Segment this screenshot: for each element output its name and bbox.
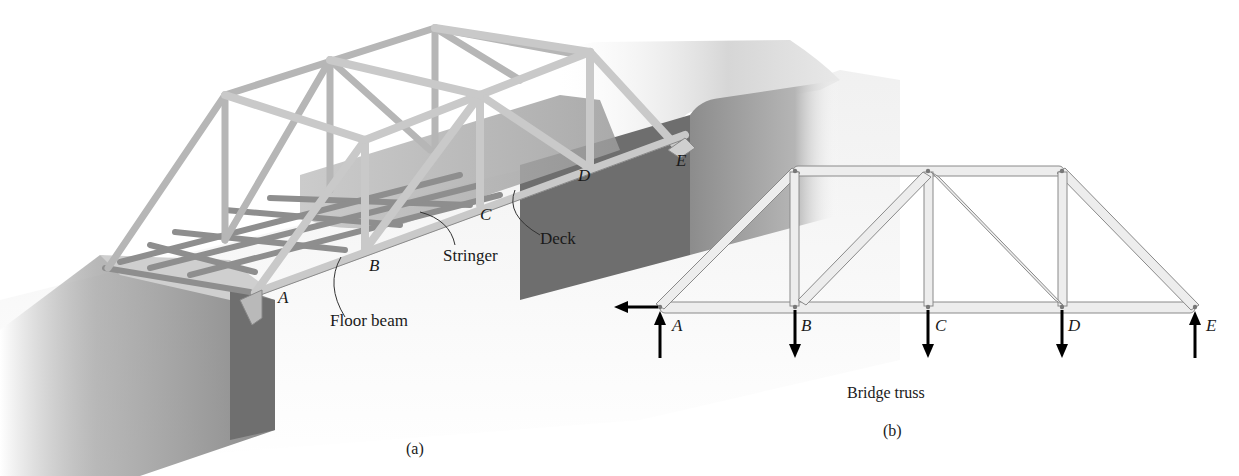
joint-e	[1193, 305, 1197, 309]
joint-label-e: E	[1206, 316, 1216, 336]
member-b-c-diagonal	[798, 172, 931, 305]
member-vertical-b	[790, 172, 799, 306]
diagram-title: Bridge truss	[847, 384, 925, 402]
bridge-truss-diagram	[0, 0, 1239, 476]
caption-b: (b)	[883, 422, 902, 440]
arrow-d-load-head	[1056, 344, 1068, 358]
joint-a	[658, 305, 662, 309]
member-vertical-c	[924, 172, 933, 306]
joint-top-mid	[926, 169, 930, 173]
member-ab-top-diagonal	[656, 168, 800, 309]
arrow-a-horizontal-head	[614, 301, 628, 313]
joint-d	[1060, 305, 1064, 309]
member-vertical-d	[1058, 172, 1067, 306]
truss-members	[656, 166, 1199, 313]
joint-top-right	[1060, 169, 1064, 173]
member-c-d-diagonal	[931, 172, 1063, 305]
arrow-b-load-head	[789, 344, 801, 358]
member-e-top-diagonal	[1057, 168, 1199, 310]
arrow-c-load-head	[922, 344, 934, 358]
joint-label-c: C	[935, 316, 946, 336]
joint-label-a: A	[672, 316, 682, 336]
joint-top-left	[793, 169, 797, 173]
joint-label-b: B	[801, 316, 811, 336]
joint-b	[793, 305, 797, 309]
joint-label-d: D	[1068, 316, 1080, 336]
joint-c	[926, 305, 930, 309]
